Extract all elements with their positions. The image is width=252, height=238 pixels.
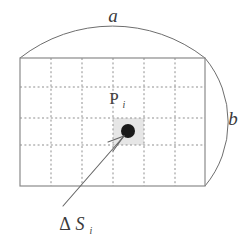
right-arc bbox=[205, 58, 228, 186]
label-top-arc-a: a bbox=[108, 5, 118, 26]
arrow-shaft bbox=[63, 136, 124, 206]
label-right-arc-b: b bbox=[228, 108, 238, 129]
label-area-element-symbol: S bbox=[76, 214, 85, 234]
top-arc bbox=[20, 26, 205, 58]
label-area-element-subscript: i bbox=[90, 225, 93, 236]
geometry-diagram: a b P i Δ S i bbox=[0, 0, 252, 238]
label-point-p: P bbox=[109, 89, 118, 108]
label-point-subscript: i bbox=[123, 99, 126, 110]
leader-arrow bbox=[63, 136, 124, 206]
label-area-element-delta: Δ bbox=[59, 214, 71, 234]
figure-container: a b P i Δ S i bbox=[0, 0, 252, 238]
